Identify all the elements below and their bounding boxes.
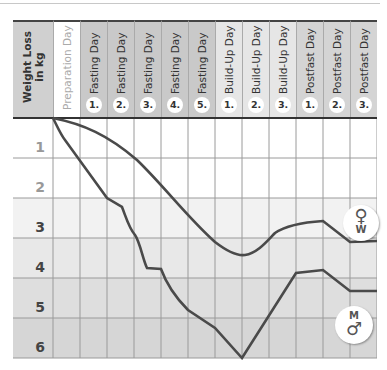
y-tick-label: 4 bbox=[15, 259, 45, 275]
female-icon: ♀ bbox=[343, 208, 379, 224]
top-rule bbox=[0, 3, 380, 4]
weight-loss-chart: Weight Loss in kg Preparation DayFasting… bbox=[13, 20, 377, 360]
y-tick-label: 1 bbox=[15, 139, 45, 155]
women-label: W bbox=[355, 224, 366, 235]
y-tick-label: 2 bbox=[15, 179, 45, 195]
men-symbol: M ♂ bbox=[335, 306, 373, 344]
y-tick-label: 6 bbox=[15, 339, 45, 355]
y-tick-label: 3 bbox=[15, 219, 45, 235]
y-tick-label: 5 bbox=[15, 299, 45, 315]
women-symbol: ♀ W bbox=[343, 205, 379, 241]
plot-area bbox=[13, 20, 377, 360]
male-icon: ♂ bbox=[335, 321, 373, 337]
